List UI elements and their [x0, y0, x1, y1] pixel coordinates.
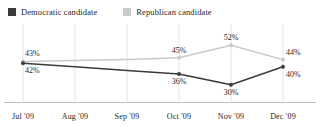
legend-swatch-republican-icon [123, 8, 131, 16]
series-line-republican [21, 44, 284, 64]
legend-item-republican: Republican candidate [123, 7, 211, 17]
svg-text:44%: 44% [286, 48, 301, 57]
svg-text:45%: 45% [172, 46, 187, 55]
legend-swatch-democratic-icon [8, 8, 16, 16]
svg-text:36%: 36% [172, 77, 187, 86]
plot-svg: 43%45%52%44% 42%36%30%40% [0, 22, 320, 114]
x-axis-tick-3: Oct '09 [167, 112, 191, 121]
series-line-democratic [21, 62, 284, 87]
line-chart: Democratic candidate Republican candidat… [0, 0, 320, 136]
x-axis-tick-5: Dec '09 [270, 112, 296, 121]
svg-text:42%: 42% [25, 66, 40, 75]
x-axis-tick-0: Jul '09 [12, 112, 34, 121]
chart-legend: Democratic candidate Republican candidat… [0, 0, 320, 24]
svg-text:43%: 43% [25, 49, 40, 58]
svg-text:30%: 30% [224, 88, 239, 97]
x-axis-labels: Jul '09Aug '09Sep '09Oct '09Nov '09Dec '… [0, 112, 320, 134]
x-axis-tick-2: Sep '09 [115, 112, 140, 121]
plot-area: 43%45%52%44% 42%36%30%40% [0, 22, 320, 114]
point-labels-republican: 43%45%52%44% [25, 33, 301, 58]
gridlines [23, 24, 283, 102]
svg-text:52%: 52% [224, 33, 239, 42]
legend-item-democratic: Democratic candidate [8, 7, 97, 17]
point-labels-democratic: 42%36%30%40% [25, 66, 301, 97]
legend-label-democratic: Democratic candidate [21, 7, 97, 17]
svg-text:40%: 40% [286, 70, 301, 79]
x-axis-tick-4: Nov '09 [218, 112, 245, 121]
x-axis-tick-1: Aug '09 [62, 112, 89, 121]
legend-label-republican: Republican candidate [136, 7, 211, 17]
